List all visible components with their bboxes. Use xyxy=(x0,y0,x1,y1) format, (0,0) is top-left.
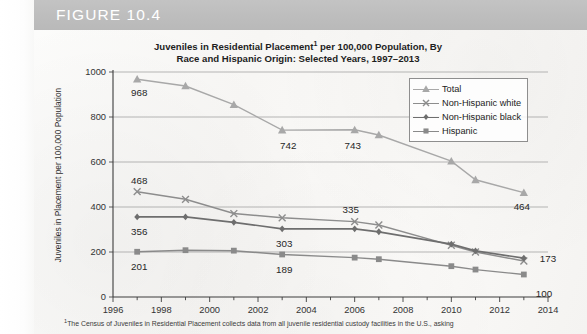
y-tick-label: 400 xyxy=(90,202,106,212)
data-point-diamond xyxy=(183,214,189,221)
data-point-x xyxy=(423,100,429,106)
legend-marker-triangle-icon xyxy=(413,83,439,95)
data-point-square xyxy=(183,247,189,253)
footnote-text: The Census of Juveniles in Residential P… xyxy=(67,320,453,327)
data-point-diamond xyxy=(134,214,140,221)
series-line-3 xyxy=(137,250,524,274)
x-tick-label: 1998 xyxy=(151,305,172,315)
legend-item-triangle[interactable]: Total xyxy=(413,82,521,96)
data-label: 742 xyxy=(280,140,296,151)
data-point-square xyxy=(352,255,358,261)
data-label: 201 xyxy=(131,261,147,272)
y-tick-label: 800 xyxy=(90,112,106,122)
legend-marker-x-icon xyxy=(413,97,439,109)
data-point-triangle xyxy=(133,75,141,83)
data-label: 100 xyxy=(536,288,553,299)
legend-label: Non-Hispanic black xyxy=(442,112,521,122)
data-point-square xyxy=(231,248,237,254)
chart-svg: 0200400600800100019961998200020022004200… xyxy=(0,0,587,334)
data-label: 968 xyxy=(131,87,148,98)
x-tick-label: 2012 xyxy=(489,305,510,315)
y-tick-label: 0 xyxy=(101,292,106,302)
x-tick-label: 2010 xyxy=(441,305,462,315)
data-label: 468 xyxy=(131,175,148,186)
legend-label: Non-Hispanic white xyxy=(442,98,521,108)
data-point-square xyxy=(448,263,454,269)
data-label: 173 xyxy=(540,253,557,264)
chart-plot-area: 0200400600800100019961998200020022004200… xyxy=(0,0,587,334)
data-point-diamond xyxy=(376,228,382,235)
data-label: 356 xyxy=(131,226,148,237)
data-point-triangle xyxy=(422,85,430,92)
legend-label: Hispanic xyxy=(442,126,477,136)
legend-item-square[interactable]: Hispanic xyxy=(413,124,521,138)
figure-footnote: 1The Census of Juveniles in Residential … xyxy=(64,317,579,328)
x-tick-label: 2014 xyxy=(538,305,559,315)
data-label: 743 xyxy=(344,140,361,151)
y-tick-label: 1000 xyxy=(85,67,106,77)
y-tick-label: 200 xyxy=(90,247,106,257)
data-point-diamond xyxy=(279,225,285,232)
data-label: 303 xyxy=(276,238,293,249)
data-label: 189 xyxy=(276,264,292,275)
data-point-square xyxy=(279,252,285,258)
data-label: 335 xyxy=(342,204,359,215)
x-tick-label: 2000 xyxy=(199,305,220,315)
legend-item-diamond[interactable]: Non-Hispanic black xyxy=(413,110,521,124)
data-point-square xyxy=(423,128,428,133)
chart-legend: TotalNon-Hispanic whiteNon-Hispanic blac… xyxy=(409,78,528,142)
data-point-diamond xyxy=(231,219,237,226)
legend-marker-square-icon xyxy=(413,125,439,137)
data-point-square xyxy=(473,267,479,273)
x-tick-label: 2004 xyxy=(296,305,317,315)
y-tick-label: 600 xyxy=(90,157,106,167)
x-tick-label: 2002 xyxy=(248,305,269,315)
legend-marker-diamond-icon xyxy=(413,111,439,123)
data-point-square xyxy=(521,272,527,278)
data-point-square xyxy=(376,256,382,262)
x-tick-label: 2006 xyxy=(344,305,365,315)
x-tick-label: 1996 xyxy=(103,305,124,315)
y-axis-title: Juveniles in Placement per 100,000 Popul… xyxy=(53,70,63,280)
data-point-diamond xyxy=(352,225,358,232)
legend-label: Total xyxy=(442,84,461,94)
data-point-square xyxy=(134,249,140,255)
x-tick-label: 2008 xyxy=(393,305,414,315)
legend-item-x[interactable]: Non-Hispanic white xyxy=(413,96,521,110)
data-label: 464 xyxy=(514,201,531,212)
data-point-diamond xyxy=(423,114,428,120)
